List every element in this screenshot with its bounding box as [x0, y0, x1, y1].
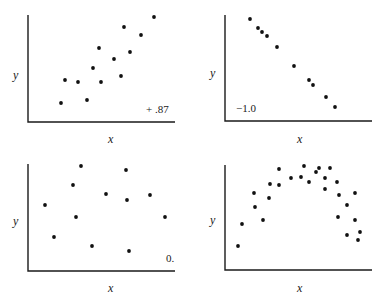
data-point: [148, 193, 152, 197]
data-points: [43, 164, 167, 253]
data-point: [253, 205, 257, 209]
data-point: [74, 215, 78, 219]
x-axis-label: x: [107, 132, 114, 146]
data-point: [152, 15, 156, 19]
data-point: [122, 25, 126, 29]
y-axis-label: y: [209, 213, 216, 227]
data-point: [268, 182, 272, 186]
data-point: [335, 180, 339, 184]
data-point: [71, 183, 75, 187]
data-point: [79, 164, 83, 168]
data-point: [43, 203, 47, 207]
axes: [28, 164, 175, 271]
data-point: [90, 244, 94, 248]
data-point: [260, 30, 264, 34]
data-point: [63, 78, 67, 82]
data-point: [292, 64, 296, 68]
data-point: [358, 230, 362, 234]
data-point: [125, 198, 129, 202]
x-axis-label: x: [296, 281, 303, 295]
data-point: [353, 218, 357, 222]
y-axis-label: y: [209, 66, 216, 80]
data-point: [52, 235, 56, 239]
data-point: [267, 196, 271, 200]
data-point: [261, 218, 265, 222]
data-point: [289, 176, 293, 180]
data-point: [345, 233, 349, 237]
data-point: [345, 203, 349, 207]
data-point: [99, 80, 103, 84]
data-point: [277, 183, 281, 187]
data-point: [307, 78, 311, 82]
data-point: [124, 168, 128, 172]
data-point: [307, 180, 311, 184]
y-axis-label: y: [12, 214, 19, 228]
data-point: [97, 46, 101, 50]
x-axis-label: x: [107, 281, 114, 295]
data-point: [139, 33, 143, 37]
data-point: [336, 215, 340, 219]
data-point: [311, 83, 315, 87]
data-point: [356, 238, 360, 242]
panel-negative-correlation: y x −1.0: [209, 15, 372, 146]
data-point: [324, 95, 328, 99]
data-point: [85, 98, 89, 102]
correlation-label: + .87: [146, 103, 169, 115]
data-point: [302, 164, 306, 168]
data-point: [163, 215, 167, 219]
data-point: [252, 191, 256, 195]
data-point: [299, 175, 303, 179]
data-point: [112, 57, 116, 61]
axes: [225, 165, 372, 270]
data-point: [59, 101, 63, 105]
data-point: [104, 192, 108, 196]
x-axis-label: x: [296, 132, 303, 146]
data-point: [353, 191, 357, 195]
data-point: [256, 26, 260, 30]
data-point: [314, 170, 318, 174]
data-point: [76, 80, 80, 84]
data-point: [91, 66, 95, 70]
data-point: [277, 167, 281, 171]
correlation-label: 0.: [166, 252, 175, 264]
data-point: [128, 50, 132, 54]
panel-zero-correlation: y x 0.: [12, 164, 175, 295]
data-points: [248, 17, 337, 109]
data-points: [59, 15, 156, 105]
data-point: [275, 45, 279, 49]
data-points: [236, 164, 362, 248]
panel-curvilinear: y x: [209, 164, 372, 295]
data-point: [248, 17, 252, 21]
scatter-plot-grid: y x + .87 y x −1.0 y x 0. y x: [0, 0, 386, 299]
data-point: [317, 166, 321, 170]
y-axis-label: y: [12, 68, 19, 82]
data-point: [119, 74, 123, 78]
data-point: [265, 34, 269, 38]
correlation-label: −1.0: [236, 102, 256, 114]
data-point: [333, 105, 337, 109]
data-point: [337, 193, 341, 197]
data-point: [328, 166, 332, 170]
data-point: [127, 249, 131, 253]
data-point: [236, 244, 240, 248]
data-point: [240, 222, 244, 226]
panel-positive-correlation: y x + .87: [12, 15, 175, 146]
data-point: [323, 187, 327, 191]
data-point: [323, 176, 327, 180]
